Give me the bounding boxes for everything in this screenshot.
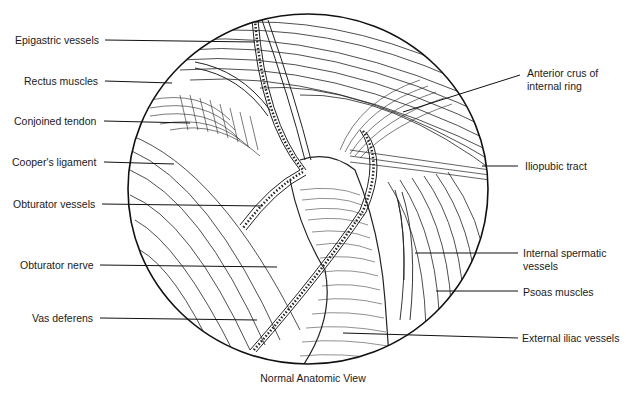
- label-psoas-muscles: Psoas muscles: [523, 286, 594, 299]
- label-coopers-ligament: Cooper's ligament: [12, 156, 96, 169]
- label-rectus-muscles: Rectus muscles: [24, 75, 98, 88]
- label-iliopubic-tract: Iliopubic tract: [525, 160, 587, 173]
- abdominal-wall-fibres: [180, 22, 500, 176]
- iliopubic-tract-lines: [350, 150, 490, 180]
- internal-spermatic-vessels-drawing: [395, 190, 413, 320]
- label-conjoined-tendon: Conjoined tendon: [14, 115, 96, 128]
- label-obturator-vessels: Obturator vessels: [13, 198, 95, 211]
- label-anterior-crus: Anterior crus of internal ring: [527, 67, 598, 93]
- label-internal-spermatic-line2: vessels: [523, 260, 606, 273]
- leader-vas-deferens: [100, 318, 257, 320]
- label-anterior-crus-line2: internal ring: [527, 80, 598, 93]
- label-external-iliac-vessels: External iliac vessels: [522, 332, 619, 345]
- epigastric-vessels-drawing: [195, 20, 311, 170]
- leader-coopers-ligament: [104, 162, 174, 164]
- figure-caption: Normal Anatomic View: [0, 372, 626, 384]
- leader-obturator-vessels: [102, 204, 262, 206]
- anterior-crus-fan: [340, 80, 452, 158]
- label-anterior-crus-line1: Anterior crus of: [527, 67, 598, 80]
- label-internal-spermatic-line1: Internal spermatic: [523, 247, 606, 260]
- label-epigastric-vessels: Epigastric vessels: [15, 34, 99, 47]
- leader-rectus-muscles: [105, 81, 172, 83]
- external-iliac-vessels-drawing: [290, 157, 390, 370]
- leader-epigastric-vessels: [105, 40, 255, 42]
- label-internal-spermatic-vessels: Internal spermatic vessels: [523, 247, 606, 273]
- leader-obturator-nerve: [100, 265, 277, 267]
- vas-deferens-drawing: [250, 130, 377, 352]
- label-vas-deferens: Vas deferens: [32, 312, 93, 325]
- leader-anterior-crus: [403, 75, 520, 112]
- obturator-vessels-drawing: [240, 170, 306, 230]
- leader-external-iliac-vessels: [343, 333, 518, 338]
- conjoined-tendon-hatching: [150, 95, 260, 156]
- label-obturator-nerve: Obturator nerve: [20, 259, 94, 272]
